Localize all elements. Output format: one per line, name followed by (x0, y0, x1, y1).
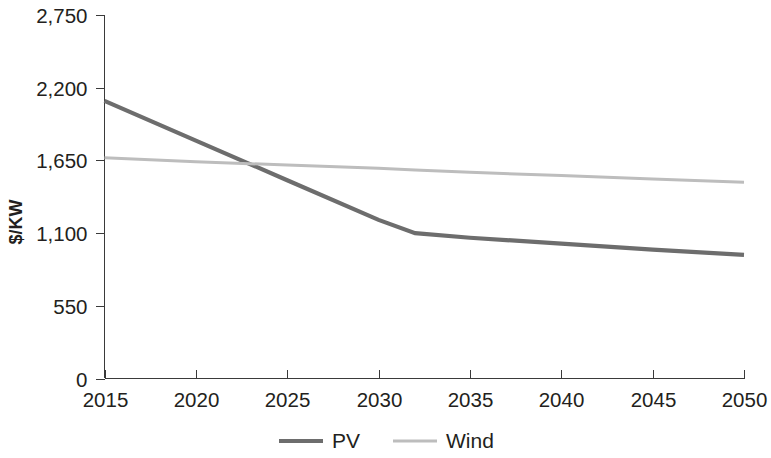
x-tick-label: 2045 (631, 388, 677, 411)
x-tick-label: 2015 (83, 388, 129, 411)
chart-container: 05501,1001,6502,2002,750 201520202025203… (0, 0, 771, 458)
x-tick-label: 2030 (357, 388, 403, 411)
x-tick-label: 2050 (722, 388, 768, 411)
y-tick-label: 1,650 (36, 149, 87, 172)
legend-label-pv: PV (332, 429, 360, 452)
y-tick-label: 550 (53, 295, 87, 318)
x-tick-label: 2040 (539, 388, 585, 411)
x-tick-label: 2025 (265, 388, 311, 411)
x-tick-label: 2035 (448, 388, 494, 411)
y-tick-label: 2,750 (36, 4, 87, 27)
y-tick-label: 2,200 (36, 77, 87, 100)
y-axis-title-text: $/KW (6, 199, 26, 244)
y-axis-title: $/KW (6, 199, 26, 244)
legend-label-wind: Wind (446, 429, 494, 452)
x-tick-label: 2020 (174, 388, 220, 411)
y-tick-label: 1,100 (36, 222, 87, 245)
line-chart: 05501,1001,6502,2002,750 201520202025203… (0, 0, 771, 458)
